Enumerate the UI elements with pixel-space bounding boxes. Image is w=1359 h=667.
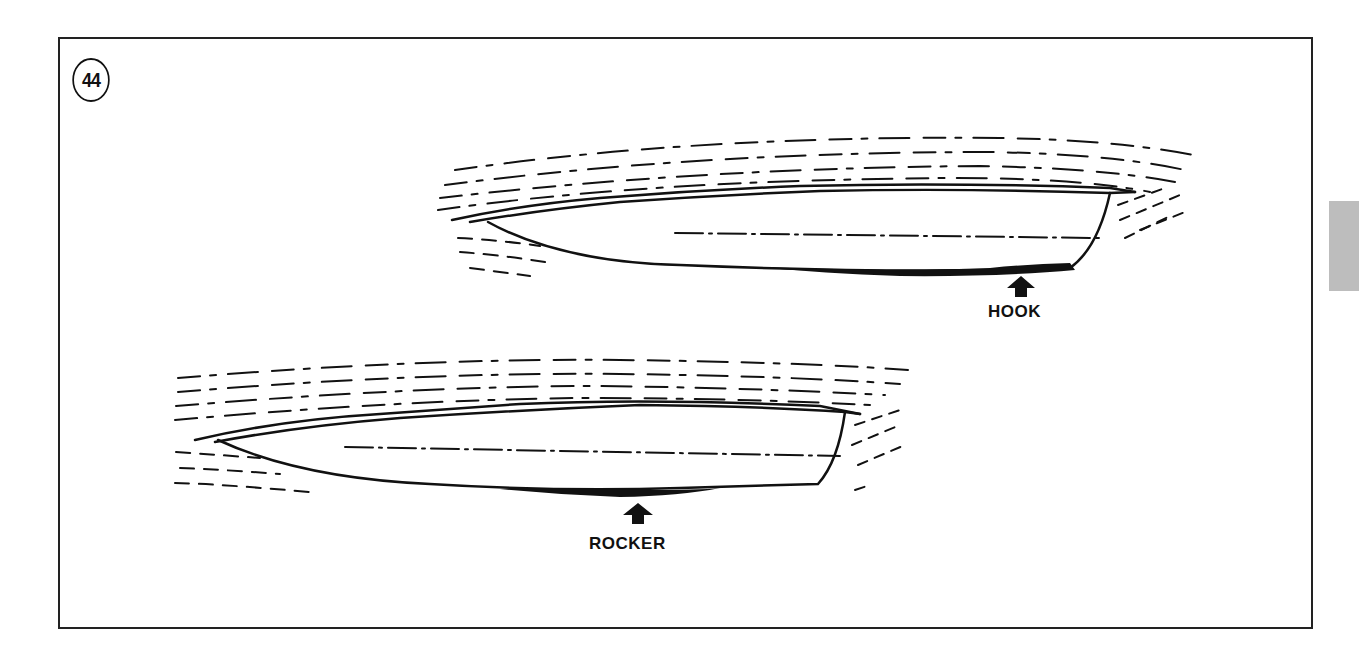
hull-illustration (0, 0, 1359, 667)
lower-hull-drawing (175, 360, 908, 524)
upper-hull-drawing (438, 138, 1198, 297)
hook-label: HOOK (988, 302, 1041, 322)
rocker-label: ROCKER (589, 534, 666, 554)
